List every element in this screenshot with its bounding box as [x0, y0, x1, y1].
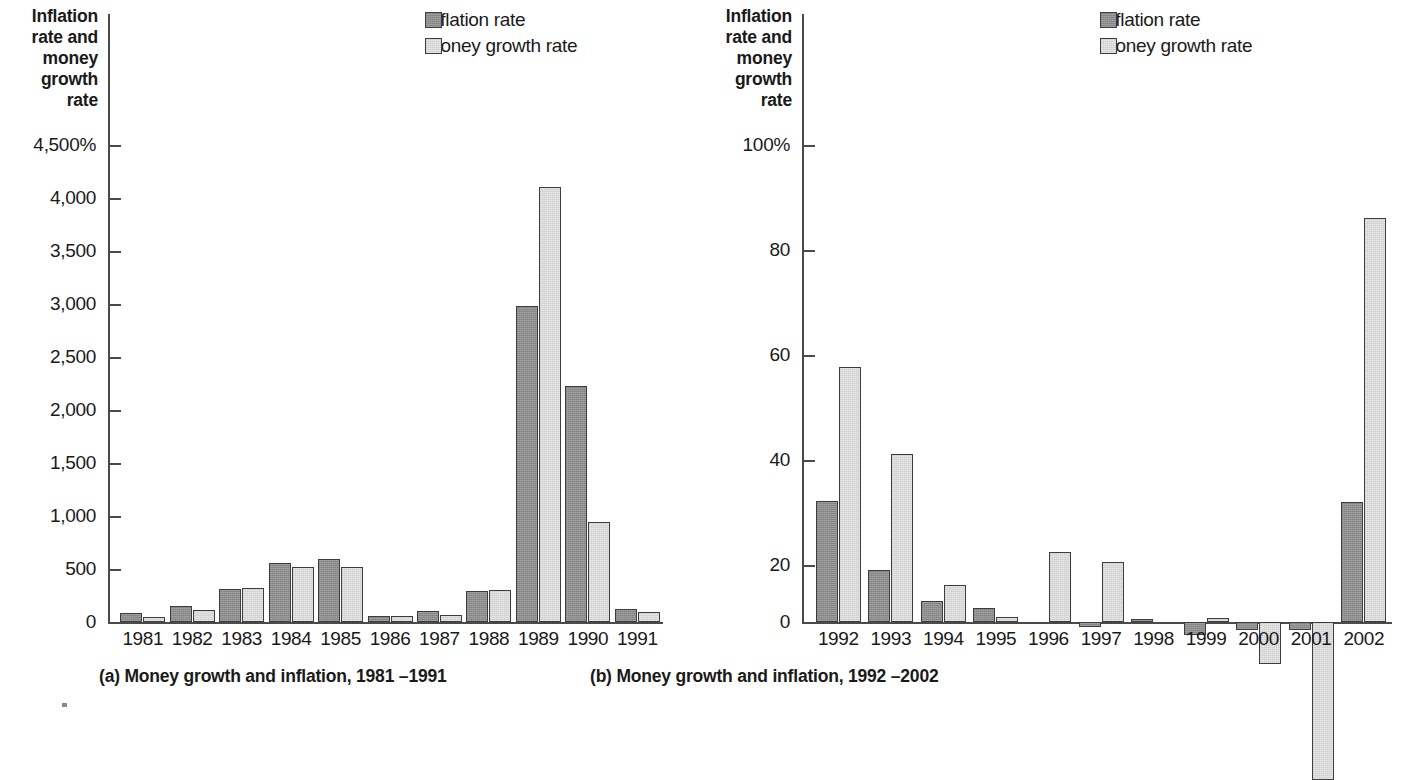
- legend-b: Inflation rate Money growth rate: [1100, 8, 1252, 60]
- x-tick-label-1991: 1991: [613, 628, 662, 650]
- legend-item-money-growth[interactable]: Money growth rate: [1100, 34, 1252, 58]
- bar-inflation-1991: [615, 609, 637, 622]
- bar-inflation-1998: [1131, 619, 1153, 622]
- y-tick-label: 80: [694, 239, 790, 261]
- y-tick-label: 3,500: [0, 240, 96, 262]
- y-tick-mark: [804, 250, 815, 252]
- y-tick-label: 0: [694, 611, 790, 633]
- bar-money-growth-1981: [143, 617, 165, 622]
- legend-swatch-money-growth-icon: [1100, 38, 1117, 54]
- bar-inflation-1987: [417, 611, 439, 622]
- bar-inflation-1982: [170, 606, 192, 622]
- legend-item-inflation[interactable]: Inflation rate: [1100, 8, 1252, 32]
- bar-money-growth-2002: [1364, 218, 1386, 622]
- y-axis-line-a: [108, 14, 110, 624]
- bar-inflation-1997: [1079, 622, 1101, 627]
- y-axis-title-line: money: [696, 48, 792, 69]
- chart-panel-a: Inflation rate and money growth rate 4,5…: [0, 0, 690, 759]
- y-axis-line-b: [802, 14, 804, 624]
- bar-inflation-1990: [565, 386, 587, 622]
- legend-label-money-growth: Money growth rate: [1100, 35, 1252, 57]
- bar-inflation-1984: [269, 563, 291, 622]
- y-tick-label: 2,000: [0, 399, 96, 421]
- y-tick-label: 0: [0, 611, 96, 633]
- y-axis-title-line: rate: [696, 90, 792, 111]
- y-tick-label: 4,000: [0, 187, 96, 209]
- x-tick-label-1987: 1987: [415, 628, 464, 650]
- x-tick-label-1983: 1983: [217, 628, 266, 650]
- y-axis-title-b: Inflation rate and money growth rate: [696, 6, 792, 111]
- x-tick-label-1989: 1989: [514, 628, 563, 650]
- y-tick-label: 1,000: [0, 505, 96, 527]
- bar-inflation-1993: [868, 570, 890, 623]
- bar-money-growth-1992: [839, 367, 861, 622]
- y-axis-title-line: Inflation: [2, 6, 98, 27]
- legend-item-money-growth[interactable]: Money growth rate: [425, 34, 577, 58]
- x-tick-label-1997: 1997: [1075, 628, 1128, 650]
- bar-money-growth-1988: [489, 590, 511, 622]
- legend-swatch-money-growth-icon: [425, 38, 442, 54]
- y-tick-mark: [804, 565, 815, 567]
- x-tick-label-1988: 1988: [464, 628, 513, 650]
- x-axis-line-a: [108, 622, 663, 624]
- bar-money-growth-1989: [539, 187, 561, 622]
- y-axis-title-line: rate: [2, 90, 98, 111]
- bar-money-growth-1985: [341, 567, 363, 622]
- x-tick-label-1981: 1981: [118, 628, 167, 650]
- y-tick-mark: [110, 463, 121, 465]
- y-tick-mark: [110, 304, 121, 306]
- legend-label-money-growth: Money growth rate: [425, 35, 577, 57]
- bar-money-growth-1993: [891, 454, 913, 622]
- bar-money-growth-1996: [1049, 552, 1071, 622]
- bar-inflation-1981: [120, 613, 142, 622]
- legend-a: Inflation rate Money growth rate: [425, 8, 577, 60]
- bar-money-growth-1982: [193, 610, 215, 622]
- y-tick-mark: [110, 357, 121, 359]
- y-axis-title-line: Inflation: [696, 6, 792, 27]
- bar-inflation-1992: [816, 501, 838, 622]
- bar-inflation-2002: [1341, 502, 1363, 622]
- y-tick-mark: [804, 460, 815, 462]
- bar-money-growth-1999: [1207, 618, 1229, 622]
- y-tick-mark: [110, 198, 121, 200]
- panel-a-caption: (a) Money growth and inflation, 1981 –19…: [99, 666, 447, 687]
- x-tick-label-1995: 1995: [970, 628, 1023, 650]
- y-tick-label: 60: [694, 344, 790, 366]
- x-tick-label-2001: 2001: [1285, 628, 1338, 650]
- y-tick-mark: [110, 410, 121, 412]
- bar-money-growth-1994: [944, 585, 966, 622]
- bar-inflation-1986: [368, 616, 390, 622]
- print-speck: [62, 703, 67, 707]
- x-tick-label-1986: 1986: [365, 628, 414, 650]
- bar-money-growth-1990: [588, 522, 610, 622]
- legend-swatch-inflation-icon: [1100, 12, 1117, 28]
- y-axis-title-line: rate and: [2, 27, 98, 48]
- y-tick-label: 1,500: [0, 452, 96, 474]
- x-tick-label-1998: 1998: [1127, 628, 1180, 650]
- x-tick-label-1993: 1993: [865, 628, 918, 650]
- bar-money-growth-1983: [242, 588, 264, 622]
- bar-money-growth-1986: [391, 616, 413, 622]
- y-tick-mark: [110, 145, 121, 147]
- chart-panel-b: Inflation rate and money growth rate 100…: [690, 0, 1409, 759]
- bar-inflation-1995: [973, 608, 995, 622]
- bar-money-growth-1991: [638, 612, 660, 622]
- y-tick-label: 500: [0, 558, 96, 580]
- x-tick-label-1985: 1985: [316, 628, 365, 650]
- y-tick-label: 20: [694, 554, 790, 576]
- x-tick-label-1994: 1994: [917, 628, 970, 650]
- bar-money-growth-1984: [292, 567, 314, 622]
- y-tick-mark: [804, 355, 815, 357]
- x-tick-label-1999: 1999: [1180, 628, 1233, 650]
- y-tick-mark: [110, 516, 121, 518]
- bar-inflation-1983: [219, 589, 241, 622]
- x-tick-label-1982: 1982: [167, 628, 216, 650]
- x-tick-label-1990: 1990: [563, 628, 612, 650]
- y-tick-label: 4,500%: [0, 134, 96, 156]
- y-axis-title-line: growth: [696, 69, 792, 90]
- y-tick-mark: [110, 251, 121, 253]
- y-tick-mark: [804, 145, 815, 147]
- bar-money-growth-1987: [440, 615, 462, 622]
- bar-money-growth-1997: [1102, 562, 1124, 622]
- legend-item-inflation[interactable]: Inflation rate: [425, 8, 577, 32]
